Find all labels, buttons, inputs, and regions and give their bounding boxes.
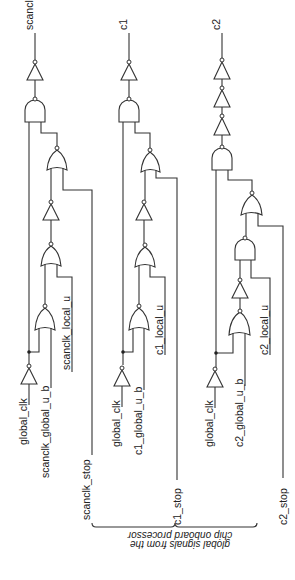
nor-gate-icon <box>129 308 149 330</box>
scanclk-circuit: scanclk global_c <box>17 0 92 520</box>
nor-gate-icon <box>35 308 55 330</box>
input-label-scanclk-local-u: scanclk_local_u <box>60 296 72 370</box>
nor-gate-icon <box>135 247 155 267</box>
input-label-c1-local-u: c1_local_u <box>153 305 165 355</box>
input-label-scanclk-stop: scanclk_stop <box>80 459 92 520</box>
nand-gate-icon <box>25 100 45 122</box>
inverter-icon <box>207 371 223 387</box>
bracket-note-line2: chip onboard processor <box>127 530 232 541</box>
output-label-c2: c2 <box>210 19 222 30</box>
bracket-icon <box>92 523 257 527</box>
inverter-icon <box>232 282 248 298</box>
nor-gate-icon <box>241 195 262 215</box>
inverter-icon <box>214 62 230 79</box>
inverter-icon <box>114 370 130 386</box>
inverter-icon <box>27 64 43 80</box>
nand-gate-icon <box>212 148 232 170</box>
inverter-icon <box>43 204 59 220</box>
clock-gating-diagram: scanclk global_c <box>0 0 295 580</box>
inverter-icon <box>136 204 152 220</box>
input-label-c2-global-u-b: c2_global_u_b <box>233 379 245 447</box>
input-label-c2-local-u: c2_local_u <box>258 305 270 355</box>
c1-circuit: c1 global_clk c1_global_u_b c1_local_u <box>110 19 183 525</box>
nor-gate-icon <box>141 152 160 172</box>
global-signals-bracket: global signals from the chip onboard pro… <box>92 523 257 550</box>
input-label-c1-stop: c1_stop <box>171 488 183 525</box>
inverter-icon <box>214 118 230 135</box>
input-label-c2-stop: c2_stop <box>277 488 289 525</box>
inverter-icon <box>121 64 137 80</box>
c2-circuit: c2 glo <box>203 19 289 525</box>
inverter-icon <box>21 368 37 384</box>
output-label-c1: c1 <box>117 19 129 30</box>
output-label-scanclk: scanclk <box>23 0 35 30</box>
junction-dot <box>121 350 125 354</box>
input-label-global-clk: global_clk <box>17 398 29 445</box>
nor-gate-icon <box>47 150 67 170</box>
input-label-c1-global-u-b: c1_global_u_b <box>132 387 144 455</box>
junction-dot <box>214 351 218 355</box>
junction-dot <box>27 350 31 354</box>
input-label-global-clk: global_clk <box>110 400 122 447</box>
nor-gate-icon <box>41 246 61 266</box>
input-label-scanclk-global-u-b: scanclk_global_u_b <box>39 386 51 478</box>
inverter-icon <box>214 90 230 107</box>
nand-gate-icon <box>119 100 139 122</box>
nand-gate-icon <box>235 239 255 260</box>
nor-gate-icon <box>229 312 250 335</box>
input-label-global-clk: global_clk <box>203 400 215 447</box>
